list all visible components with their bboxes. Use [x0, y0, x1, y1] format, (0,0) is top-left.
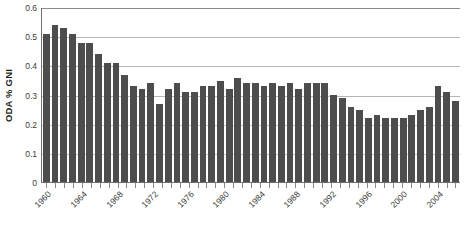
bar[interactable] — [86, 43, 93, 182]
bar-slot — [155, 8, 164, 182]
bar-slot — [103, 8, 112, 182]
bar-slot — [86, 8, 95, 182]
bar-slot — [129, 8, 138, 182]
bar[interactable] — [417, 110, 424, 183]
x-label-slot — [238, 188, 247, 228]
bar[interactable] — [234, 78, 241, 182]
x-label-slot — [309, 188, 318, 228]
bar[interactable] — [330, 95, 337, 182]
bar[interactable] — [400, 118, 407, 182]
bar-slot — [329, 8, 338, 182]
bar[interactable] — [165, 89, 172, 182]
bar-slot — [347, 8, 356, 182]
bar-slot — [260, 8, 269, 182]
bar-slot — [294, 8, 303, 182]
bar[interactable] — [382, 118, 389, 182]
y-tick-label: 0.3 — [25, 91, 37, 100]
bar-slot — [42, 8, 51, 182]
x-label-slot — [264, 188, 273, 228]
bar[interactable] — [174, 83, 181, 182]
bar[interactable] — [69, 34, 76, 182]
y-tick-label: 0.2 — [25, 120, 37, 129]
bar[interactable] — [104, 63, 111, 182]
bar[interactable] — [121, 75, 128, 182]
y-axis-title: ODA % GNI — [0, 0, 18, 190]
bar[interactable] — [156, 104, 163, 182]
bar-series — [42, 8, 460, 182]
x-label-slot — [442, 188, 451, 228]
bar-slot — [277, 8, 286, 182]
bar-slot — [390, 8, 399, 182]
bar-slot — [364, 8, 373, 182]
bar-slot — [451, 8, 460, 182]
bar[interactable] — [78, 43, 85, 182]
bar[interactable] — [200, 86, 207, 182]
bar[interactable] — [452, 101, 459, 182]
bar[interactable] — [217, 81, 224, 183]
bar-slot — [216, 8, 225, 182]
bar[interactable] — [208, 86, 215, 182]
bar[interactable] — [339, 98, 346, 182]
x-label-slot: 1984 — [255, 188, 264, 228]
bar-slot — [190, 8, 199, 182]
bar-slot — [355, 8, 364, 182]
y-tick-label: 0.6 — [25, 4, 37, 13]
bar[interactable] — [304, 83, 311, 182]
bar-slot — [373, 8, 382, 182]
bar[interactable] — [243, 83, 250, 182]
y-tick-label: 0.4 — [25, 62, 37, 71]
x-label-slot: 1968 — [113, 188, 122, 228]
bar[interactable] — [182, 92, 189, 182]
x-label-slot: 1988 — [291, 188, 300, 228]
bar-slot — [242, 8, 251, 182]
bar[interactable] — [269, 83, 276, 182]
bar[interactable] — [52, 25, 59, 182]
y-tick-label: 0.5 — [25, 33, 37, 42]
bar[interactable] — [191, 92, 198, 182]
x-label-slot — [166, 188, 175, 228]
x-label-slot — [415, 188, 424, 228]
bar[interactable] — [43, 34, 50, 182]
bar[interactable] — [226, 89, 233, 182]
x-axis-tick-labels: 1960196419681972197619801984198819921996… — [42, 188, 460, 228]
bar[interactable] — [287, 83, 294, 182]
bar[interactable] — [139, 89, 146, 182]
bar[interactable] — [147, 83, 154, 182]
bar[interactable] — [130, 86, 137, 182]
bar[interactable] — [426, 107, 433, 182]
bar[interactable] — [391, 118, 398, 182]
bar[interactable] — [278, 86, 285, 182]
bar[interactable] — [313, 83, 320, 182]
x-label-slot: 1976 — [184, 188, 193, 228]
bar-slot — [146, 8, 155, 182]
oda-gni-bar-chart: ODA % GNI 0.60.50.40.30.20.10 1960196419… — [0, 0, 475, 228]
bar[interactable] — [295, 89, 302, 182]
x-label-slot — [158, 188, 167, 228]
bar[interactable] — [374, 115, 381, 182]
bar[interactable] — [348, 107, 355, 182]
bar[interactable] — [60, 28, 67, 182]
bar[interactable] — [408, 115, 415, 182]
bar[interactable] — [435, 86, 442, 182]
bar-slot — [225, 8, 234, 182]
bar[interactable] — [365, 118, 372, 182]
bar[interactable] — [261, 86, 268, 182]
x-label-slot — [371, 188, 380, 228]
bar[interactable] — [252, 83, 259, 182]
bar-slot — [173, 8, 182, 182]
x-label-slot: 1992 — [327, 188, 336, 228]
bar[interactable] — [356, 110, 363, 183]
bar-slot — [408, 8, 417, 182]
bar[interactable] — [321, 83, 328, 182]
bar-slot — [94, 8, 103, 182]
bar-slot — [425, 8, 434, 182]
bar-slot — [251, 8, 260, 182]
bar[interactable] — [113, 63, 120, 182]
bar-slot — [321, 8, 330, 182]
x-label-slot: 2000 — [398, 188, 407, 228]
bar-slot — [416, 8, 425, 182]
x-label-slot — [344, 188, 353, 228]
bar[interactable] — [95, 54, 102, 182]
x-label-slot — [229, 188, 238, 228]
bar[interactable] — [443, 92, 450, 182]
